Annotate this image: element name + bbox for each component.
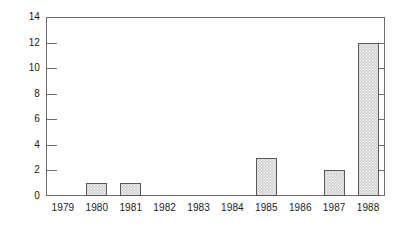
x-axis-tick-label: 1982 bbox=[148, 202, 182, 213]
plot-area bbox=[46, 17, 385, 196]
y-axis-tick-mark-left bbox=[46, 68, 57, 69]
y-axis-tick-label: 6 bbox=[6, 114, 40, 124]
bar-1985 bbox=[256, 158, 277, 196]
x-axis-tick-label: 1986 bbox=[283, 202, 317, 213]
y-axis-tick-label: 4 bbox=[6, 140, 40, 150]
x-axis-tick-label: 1988 bbox=[351, 202, 385, 213]
bar-1987 bbox=[324, 170, 345, 196]
x-axis-tick-label: 1983 bbox=[182, 202, 216, 213]
y-axis-tick-mark-left bbox=[46, 119, 57, 120]
x-axis-tick-label: 1984 bbox=[215, 202, 249, 213]
y-axis-tick-label: 10 bbox=[6, 63, 40, 73]
x-axis-tick-label: 1987 bbox=[317, 202, 351, 213]
x-axis-tick-label: 1980 bbox=[80, 202, 114, 213]
y-axis-tick-mark-left bbox=[46, 145, 57, 146]
y-axis-tick-mark-left bbox=[46, 43, 57, 44]
x-axis-tick-label: 1985 bbox=[249, 202, 283, 213]
x-axis-tick-label: 1981 bbox=[114, 202, 148, 213]
y-axis-tick-mark-left bbox=[46, 94, 57, 95]
y-axis-tick-label: 8 bbox=[6, 89, 40, 99]
x-axis-tick-label: 1979 bbox=[46, 202, 80, 213]
bar-1981 bbox=[120, 183, 141, 196]
bar-1988 bbox=[358, 43, 379, 196]
y-axis-tick-label: 0 bbox=[6, 191, 40, 201]
bar-chart: 02468101214 1979198019811982198319841985… bbox=[0, 0, 419, 227]
y-axis-tick-label: 14 bbox=[6, 12, 40, 22]
y-axis-tick-mark-left bbox=[46, 170, 57, 171]
bar-1980 bbox=[86, 183, 107, 196]
y-axis-tick-label: 12 bbox=[6, 38, 40, 48]
y-axis-tick-label: 2 bbox=[6, 165, 40, 175]
